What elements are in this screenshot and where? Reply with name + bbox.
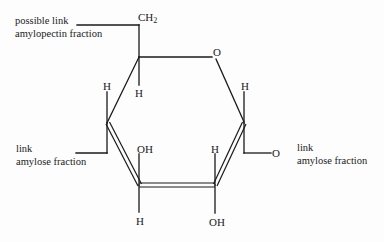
c2-oh-label: OH bbox=[209, 216, 225, 228]
starch-glucose-diagram: possible link amylopectin fraction link … bbox=[0, 0, 384, 242]
right-link-text: link bbox=[297, 141, 367, 154]
amylopectin-fraction-text: amylopectin fraction bbox=[15, 27, 102, 40]
ch2-subscript: 2 bbox=[153, 16, 157, 25]
left-amylose-fraction-text: amylose fraction bbox=[16, 155, 86, 168]
c1-h-label: H bbox=[241, 80, 249, 92]
c3-h-label: H bbox=[136, 215, 144, 227]
amylopectin-link-label: possible link amylopectin fraction bbox=[15, 14, 102, 40]
ch2-label: CH2 bbox=[138, 11, 157, 27]
left-amylose-link-label: link amylose fraction bbox=[16, 142, 86, 168]
ch2-main-text: CH bbox=[138, 11, 153, 23]
ring-oxygen-label: O bbox=[213, 46, 221, 58]
c3-c2-front-bond bbox=[139, 183, 215, 187]
c2-h-label: H bbox=[211, 143, 219, 155]
right-amylose-fraction-text: amylose fraction bbox=[297, 154, 367, 167]
c4-h-label: H bbox=[103, 80, 111, 92]
possible-link-text: possible link bbox=[15, 14, 102, 27]
link-oxygen-label: O bbox=[272, 147, 280, 159]
c3-oh-label: OH bbox=[137, 143, 153, 155]
left-link-text: link bbox=[16, 142, 86, 155]
o-c1-bond bbox=[216, 59, 244, 122]
c5-h-label: H bbox=[135, 87, 143, 99]
right-amylose-link-label: link amylose fraction bbox=[297, 141, 367, 167]
